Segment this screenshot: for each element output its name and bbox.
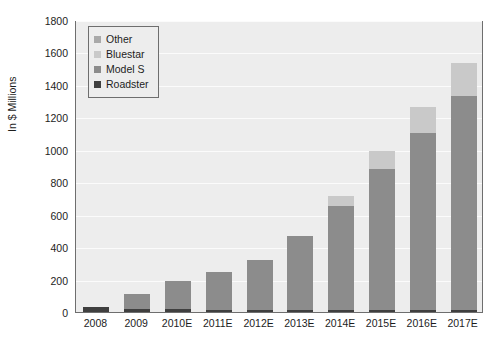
y-axis-tick-label: 400 — [50, 243, 68, 254]
legend-item-bluestar: Bluestar — [94, 47, 149, 62]
bar-segment-model-s — [287, 236, 313, 310]
bar-segment-model-s — [165, 281, 191, 309]
bar-segment-roadster — [124, 309, 150, 312]
bar-2017E — [451, 63, 477, 312]
bar-segment-model-s — [124, 294, 150, 309]
legend-item-label: Model S — [106, 64, 145, 75]
bar-segment-roadster — [287, 310, 313, 312]
bar-2008 — [83, 307, 109, 312]
bar-2015E — [369, 151, 395, 312]
bar-segment-other — [451, 63, 477, 96]
x-axis-tick-label: 2015E — [361, 318, 402, 329]
bar-segment-roadster — [369, 310, 395, 312]
legend-swatch-icon — [94, 81, 101, 88]
bar-segment-roadster — [206, 310, 232, 312]
bar-segment-roadster — [451, 310, 477, 312]
chart-legend: OtherBluestarModel SRoadster — [88, 26, 159, 98]
bar-segment-bluestar — [410, 133, 436, 212]
bar-segment-bluestar — [451, 96, 477, 215]
y-axis-tick-label: 1000 — [45, 146, 68, 157]
bar-segment-model-s — [451, 216, 477, 310]
bar-segment-roadster — [410, 310, 436, 312]
legend-item-other: Other — [94, 32, 149, 47]
legend-swatch-icon — [94, 51, 101, 58]
gridline — [76, 21, 482, 22]
y-axis-tick-label: 1800 — [45, 16, 68, 27]
bar-2010E — [165, 281, 191, 312]
bar-segment-roadster — [83, 307, 109, 312]
bar-2014E — [328, 196, 354, 312]
x-axis-tick-label: 2010E — [157, 318, 198, 329]
bar-segment-roadster — [247, 310, 273, 312]
bar-segment-model-s — [206, 272, 232, 309]
y-axis-tick-label: 0 — [62, 308, 68, 319]
y-axis-tick-label: 800 — [50, 178, 68, 189]
x-axis-tick-label: 2009 — [116, 318, 157, 329]
y-axis-tick-label: 1200 — [45, 113, 68, 124]
bar-2009 — [124, 294, 150, 312]
x-axis-tick-label: 2008 — [75, 318, 116, 329]
y-axis-title: In $ Millions — [6, 77, 18, 132]
legend-item-label: Other — [106, 34, 132, 45]
x-axis-tick-label: 2013E — [279, 318, 320, 329]
x-axis-tick-label: 2014E — [320, 318, 361, 329]
bar-2011E — [206, 272, 232, 312]
legend-item-model-s: Model S — [94, 62, 149, 77]
bar-2016E — [410, 107, 436, 312]
bar-segment-model-s — [328, 206, 354, 310]
bar-segment-model-s — [247, 260, 273, 309]
bar-segment-roadster — [328, 310, 354, 312]
x-axis-tick-label: 2012E — [238, 318, 279, 329]
bar-segment-model-s — [410, 212, 436, 309]
legend-swatch-icon — [94, 36, 101, 43]
y-axis-tick-label: 600 — [50, 211, 68, 222]
legend-item-label: Bluestar — [106, 49, 145, 60]
legend-item-roadster: Roadster — [94, 77, 149, 92]
bar-segment-model-s — [369, 209, 395, 310]
legend-swatch-icon — [94, 66, 101, 73]
bar-segment-roadster — [165, 309, 191, 312]
y-axis-tick-label: 200 — [50, 276, 68, 287]
y-axis-tick-label: 1400 — [45, 81, 68, 92]
chart-container: In $ Millions 02004006008001000120014001… — [0, 0, 496, 352]
x-axis-tick-label: 2016E — [401, 318, 442, 329]
bar-segment-other — [369, 151, 395, 169]
bar-2012E — [247, 260, 273, 312]
x-axis-tick-label: 2017E — [442, 318, 483, 329]
y-axis-tick-label: 1600 — [45, 48, 68, 59]
legend-item-label: Roadster — [106, 79, 149, 90]
bar-segment-bluestar — [369, 169, 395, 210]
bar-segment-other — [410, 107, 436, 133]
bar-segment-other — [328, 196, 354, 206]
x-axis-tick-label: 2011E — [197, 318, 238, 329]
bar-2013E — [287, 236, 313, 312]
